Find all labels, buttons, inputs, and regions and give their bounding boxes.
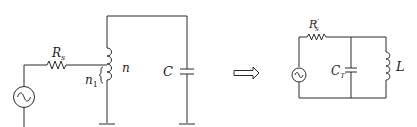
tapped-inductor-icon	[107, 48, 112, 80]
circuit-diagram: Rs n n1 C R′s	[0, 0, 417, 127]
ac-source-icon	[292, 68, 306, 82]
inductor-l-label: L	[395, 59, 405, 74]
double-right-arrow-icon	[234, 67, 259, 79]
resistor-rs-icon	[44, 61, 107, 69]
capacitor-ct-label: CT	[331, 64, 346, 80]
resistor-rs-prime-icon	[299, 34, 386, 40]
inductor-n1-label: n1	[85, 73, 98, 89]
capacitor-c-icon	[180, 69, 194, 74]
wire	[299, 82, 386, 98]
resistor-rs-label: Rs	[51, 46, 65, 62]
inductor-l-icon	[386, 52, 390, 80]
capacitor-ct-icon	[345, 68, 357, 72]
capacitor-c-label: C	[163, 64, 173, 79]
wire	[24, 65, 44, 87]
wire	[107, 16, 187, 69]
inductor-n-label: n	[122, 61, 130, 75]
ac-source-icon	[14, 87, 35, 108]
resistor-rs-prime-label: R′s	[308, 17, 319, 33]
left-circuit: Rs n n1 C	[14, 16, 196, 127]
brace-icon	[99, 67, 103, 83]
right-circuit: R′s CT L	[292, 17, 405, 98]
